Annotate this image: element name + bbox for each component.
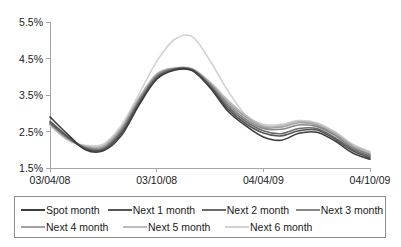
line-chart-svg: 1.5%2.5%3.5%4.5%5.5%03/04/0803/10/0804/0…	[0, 0, 401, 190]
x-axis-tick-label: 03/10/08	[136, 174, 177, 186]
legend-item[interactable]: Next 5 month	[123, 221, 217, 233]
x-axis-tick-label: 04/10/09	[350, 174, 391, 186]
legend-item[interactable]: Next 6 month	[225, 221, 319, 233]
series-line	[50, 67, 370, 153]
legend-item-label: Next 6 month	[250, 221, 312, 233]
legend-line-swatch	[21, 226, 45, 228]
legend-line-swatch	[21, 209, 45, 211]
y-axis-tick-label: 4.5%	[19, 53, 43, 65]
legend-item-label: Next 2 month	[227, 204, 289, 216]
legend-row-1: Spot monthNext 1 monthNext 2 monthNext 3…	[21, 201, 381, 218]
legend-row-2: Next 4 monthNext 5 monthNext 6 month	[21, 218, 381, 235]
legend-line-swatch	[296, 209, 320, 211]
legend-line-swatch	[202, 209, 226, 211]
legend-item-label: Next 1 month	[133, 204, 195, 216]
series-line	[50, 68, 370, 155]
legend-item-label: Next 3 month	[321, 204, 383, 216]
legend-item[interactable]: Next 4 month	[21, 221, 115, 233]
legend-line-swatch	[225, 226, 249, 228]
legend-item[interactable]: Next 2 month	[202, 204, 288, 216]
legend-item[interactable]: Next 3 month	[296, 204, 382, 216]
chart-plot-area: 1.5%2.5%3.5%4.5%5.5%03/04/0803/10/0804/0…	[0, 0, 401, 190]
y-axis-tick-label: 2.5%	[19, 126, 43, 138]
legend-item-label: Next 4 month	[46, 221, 108, 233]
y-axis-tick-label: 3.5%	[19, 89, 43, 101]
chart-legend: Spot monthNext 1 monthNext 2 monthNext 3…	[14, 196, 386, 238]
forward-curve-chart-figure: 1.5%2.5%3.5%4.5%5.5%03/04/0803/10/0804/0…	[0, 0, 401, 247]
legend-item-label: Spot month	[46, 204, 100, 216]
legend-line-swatch	[123, 226, 147, 228]
y-axis-tick-label: 1.5%	[19, 162, 43, 174]
x-axis-tick-label: 03/04/08	[30, 174, 71, 186]
series-line	[50, 67, 370, 154]
x-axis-tick-label: 04/04/09	[243, 174, 284, 186]
legend-item-label: Next 5 month	[148, 221, 210, 233]
legend-item[interactable]: Next 1 month	[108, 204, 194, 216]
y-axis-tick-label: 5.5%	[19, 16, 43, 28]
legend-item[interactable]: Spot month	[21, 204, 100, 216]
legend-line-swatch	[108, 209, 132, 211]
